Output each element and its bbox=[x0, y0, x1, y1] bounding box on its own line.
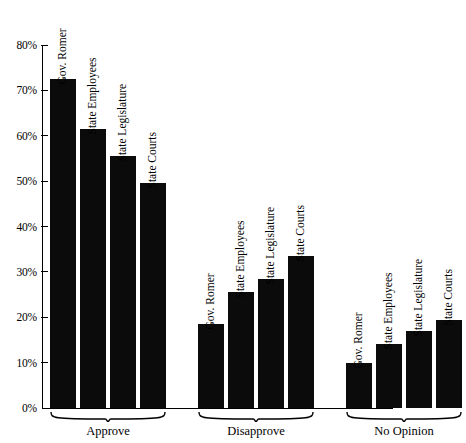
bar-category-label: State Legislature bbox=[413, 259, 425, 337]
bar bbox=[110, 156, 136, 408]
bar-category-label: State Employees bbox=[87, 57, 99, 134]
bar-category-label: State Courts bbox=[295, 205, 307, 262]
bar bbox=[198, 324, 224, 408]
group-label: Approve bbox=[38, 424, 178, 439]
y-axis-tick-label: 70% bbox=[17, 83, 37, 97]
y-axis-tick-label: 20% bbox=[17, 310, 37, 324]
bar bbox=[346, 363, 372, 408]
bar bbox=[406, 331, 432, 408]
bar-category-label: State Courts bbox=[147, 132, 159, 189]
y-axis-tick-label: 30% bbox=[17, 265, 37, 279]
bar bbox=[436, 320, 462, 408]
bar bbox=[80, 129, 106, 408]
y-axis-tick-label: 60% bbox=[17, 129, 37, 143]
bar-category-label: State Courts bbox=[443, 268, 455, 325]
group-label: No Opinion bbox=[334, 424, 466, 439]
bar bbox=[50, 79, 76, 408]
bar bbox=[258, 279, 284, 408]
y-axis-tick-label: 40% bbox=[17, 220, 37, 234]
bar bbox=[376, 344, 402, 408]
bar bbox=[288, 256, 314, 408]
bar-category-label: Gov. Romer bbox=[57, 28, 69, 84]
y-axis-tick-label: 0% bbox=[22, 401, 37, 415]
group-brace bbox=[198, 412, 314, 422]
bar-category-label: State Legislature bbox=[265, 207, 277, 285]
bar bbox=[228, 292, 254, 408]
bar-category-label: Gov. Romer bbox=[353, 312, 365, 368]
bar bbox=[140, 183, 166, 408]
group-brace bbox=[50, 412, 166, 422]
bar-category-label: State Legislature bbox=[117, 84, 129, 162]
x-axis-baseline bbox=[42, 408, 393, 409]
y-axis-tick-label: 50% bbox=[17, 174, 37, 188]
bar-category-label: Gov. Romer bbox=[205, 273, 217, 329]
group-label: Disapprove bbox=[186, 424, 326, 439]
y-axis-tick-label: 10% bbox=[17, 356, 37, 370]
bar-category-label: State Employees bbox=[235, 221, 247, 298]
group-brace bbox=[346, 412, 462, 422]
plot-area: Gov. RomerState EmployeesState Legislatu… bbox=[43, 20, 393, 408]
y-axis-tick-label: 80% bbox=[17, 38, 37, 52]
bar-category-label: State Employees bbox=[383, 273, 395, 350]
